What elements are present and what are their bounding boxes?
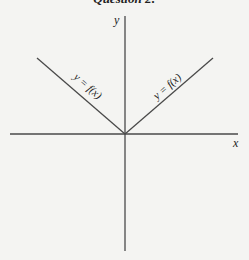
left-branch: [37, 58, 125, 134]
right-branch: [125, 58, 213, 134]
y-axis-label: y: [113, 13, 120, 27]
left-branch-label: y = f(x): [70, 70, 104, 102]
x-axis-label: x: [232, 136, 239, 150]
graph: y x y = f(x) y = f(x): [0, 0, 249, 260]
